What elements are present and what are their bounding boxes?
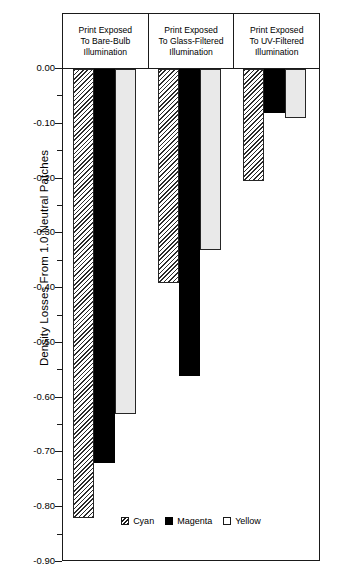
group-header-line: To UV-Filtered bbox=[249, 36, 303, 47]
group-header-line: Print Exposed bbox=[164, 25, 218, 36]
y-tick-label: -0.80 bbox=[13, 501, 55, 511]
hatched-swatch bbox=[121, 517, 129, 525]
y-tick-label: -0.30 bbox=[13, 227, 55, 237]
legend-item-yellow: Yellow bbox=[223, 516, 261, 526]
y-tick-label: 0.00 bbox=[13, 63, 55, 73]
y-tick-major bbox=[55, 232, 62, 233]
chart-legend: CyanMagentaYellow bbox=[62, 513, 320, 529]
group-header-line: Illumination bbox=[84, 47, 127, 58]
y-tick-major bbox=[55, 342, 62, 343]
bar-cyan bbox=[73, 69, 94, 518]
y-tick-label: -0.50 bbox=[13, 337, 55, 347]
legend-item-magenta: Magenta bbox=[165, 516, 212, 526]
group-header-1: Print ExposedTo Bare-BulbIllumination bbox=[63, 14, 148, 68]
legend-label: Cyan bbox=[133, 516, 154, 526]
group-header-panel: Print ExposedTo Bare-BulbIlluminationPri… bbox=[62, 13, 320, 69]
y-axis-tick-labels: 0.00-0.10-0.20-0.30-0.40-0.50-0.60-0.70-… bbox=[8, 0, 55, 582]
group-header-line: Print Exposed bbox=[79, 25, 133, 36]
bar-group-1 bbox=[63, 69, 148, 560]
y-tick-label: -0.20 bbox=[13, 173, 55, 183]
y-tick-label: -0.60 bbox=[13, 392, 55, 402]
open-white-swatch bbox=[223, 517, 231, 525]
y-tick-major bbox=[55, 451, 62, 452]
y-tick-major bbox=[55, 123, 62, 124]
group-header-line: Illumination bbox=[255, 47, 298, 58]
y-tick-major bbox=[55, 397, 62, 398]
y-tick-major bbox=[55, 506, 62, 507]
legend-item-cyan: Cyan bbox=[121, 516, 154, 526]
group-header-line: Print Exposed bbox=[250, 25, 304, 36]
group-header-line: To Glass-Filtered bbox=[159, 36, 224, 47]
bar-magenta bbox=[264, 69, 285, 113]
group-header-2: Print ExposedTo Glass-FilteredIlluminati… bbox=[148, 14, 234, 68]
y-tick-label: -0.70 bbox=[13, 446, 55, 456]
bars-layer bbox=[63, 69, 318, 560]
bar-cyan bbox=[243, 69, 264, 181]
bar-group-3 bbox=[233, 69, 318, 560]
bar-yellow bbox=[285, 69, 306, 118]
y-tick-major bbox=[55, 68, 62, 69]
y-tick-label: -0.10 bbox=[13, 118, 55, 128]
legend-label: Magenta bbox=[177, 516, 212, 526]
group-header-line: Illumination bbox=[169, 47, 212, 58]
bar-group-2 bbox=[148, 69, 233, 560]
bar-yellow bbox=[200, 69, 221, 250]
bar-magenta bbox=[94, 69, 115, 463]
y-tick-major bbox=[55, 287, 62, 288]
y-tick-label: -0.90 bbox=[13, 556, 55, 566]
y-tick-label: -0.40 bbox=[13, 282, 55, 292]
y-tick-major bbox=[55, 561, 62, 562]
bar-yellow bbox=[115, 69, 136, 414]
bar-magenta bbox=[179, 69, 200, 376]
y-tick-major bbox=[55, 178, 62, 179]
group-header-3: Print ExposedTo UV-FilteredIllumination bbox=[233, 14, 319, 68]
group-header-line: To Bare-Bulb bbox=[80, 36, 130, 47]
chart-root: Density Losses From 1.0 Neutral Patches … bbox=[0, 0, 340, 582]
legend-label: Yellow bbox=[235, 516, 261, 526]
bar-cyan bbox=[158, 69, 179, 283]
filled-black-swatch bbox=[165, 517, 173, 525]
